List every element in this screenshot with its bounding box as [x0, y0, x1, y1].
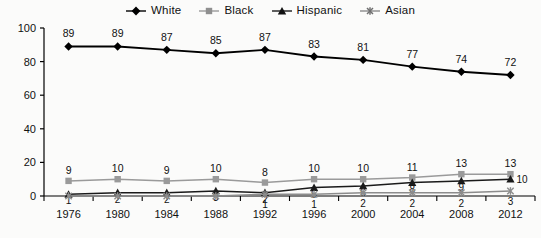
- x-axis-tick-label: 2000: [351, 208, 375, 220]
- square-marker-icon: [213, 176, 219, 182]
- data-label: 87: [161, 31, 173, 43]
- data-label: 2: [360, 198, 366, 209]
- square-marker-icon: [458, 171, 464, 177]
- data-label: 3: [508, 196, 514, 207]
- data-label: 1: [262, 199, 268, 210]
- legend-label-white: White: [151, 5, 181, 17]
- data-label: 2: [409, 198, 415, 209]
- data-label: 72: [505, 56, 517, 68]
- data-label: 1: [311, 199, 317, 210]
- triangle-marker-icon: [272, 5, 292, 17]
- data-label: 74: [456, 53, 468, 65]
- data-label: 11: [407, 161, 418, 173]
- asterisk-marker-icon: [360, 5, 380, 17]
- data-label: 13: [456, 157, 468, 169]
- y-axis-tick-label: 100: [18, 22, 36, 34]
- data-label: 9: [66, 164, 72, 176]
- data-label: 77: [406, 48, 418, 60]
- data-label: 10: [112, 162, 124, 174]
- legend-label-asian: Asian: [385, 5, 415, 17]
- series-white: [64, 42, 514, 79]
- square-marker-icon: [65, 178, 71, 184]
- legend-item-white: White: [126, 5, 181, 17]
- data-label: 83: [308, 38, 320, 50]
- y-axis-tick-label: 0: [30, 190, 36, 202]
- legend-label-hispanic: Hispanic: [297, 5, 343, 17]
- x-axis-tick-label: 2004: [400, 208, 424, 220]
- diamond-marker-icon: [64, 42, 72, 50]
- plot-area: 0204060801001976198019841988199219962000…: [0, 18, 541, 238]
- y-axis-tick-label: 20: [24, 156, 36, 168]
- diamond-marker-icon: [113, 42, 121, 50]
- diamond-marker-icon: [506, 71, 514, 79]
- data-label: 9: [164, 164, 170, 176]
- legend-item-asian: Asian: [360, 5, 415, 17]
- series-black: [65, 171, 513, 186]
- data-label: 8: [262, 166, 268, 178]
- square-marker-icon: [311, 176, 317, 182]
- data-label: 10: [516, 174, 528, 185]
- data-label: 85: [210, 34, 222, 46]
- data-label: 2: [459, 198, 465, 209]
- series-line: [69, 46, 511, 75]
- diamond-marker-icon: [212, 49, 220, 57]
- diamond-marker-icon: [310, 52, 318, 60]
- square-marker-icon: [164, 178, 170, 184]
- y-axis-tick-label: 40: [24, 123, 36, 135]
- y-axis-tick-label: 80: [24, 56, 36, 68]
- data-label: 81: [357, 41, 369, 53]
- square-marker-icon: [262, 179, 268, 185]
- square-marker-icon: [199, 5, 219, 17]
- legend-label-black: Black: [224, 5, 253, 17]
- diamond-marker-icon: [163, 46, 171, 54]
- data-label: 10: [357, 162, 369, 174]
- legend-item-black: Black: [199, 5, 253, 17]
- legend-item-hispanic: Hispanic: [272, 5, 343, 17]
- diamond-marker-icon: [261, 46, 269, 54]
- diamond-marker-icon: [408, 62, 416, 70]
- diamond-marker-icon: [359, 56, 367, 64]
- x-axis-tick-label: 1976: [56, 208, 80, 220]
- square-marker-icon: [360, 176, 366, 182]
- square-marker-icon: [114, 176, 120, 182]
- x-axis-tick-label: 1988: [204, 208, 228, 220]
- data-label: 87: [259, 31, 271, 43]
- y-axis-tick-label: 60: [24, 89, 36, 101]
- x-axis-tick-label: 2012: [498, 208, 522, 220]
- chart-svg: 0204060801001976198019841988199219962000…: [0, 18, 541, 238]
- data-label: 13: [505, 157, 517, 169]
- chart-container: White Black Hispanic: [0, 0, 541, 238]
- data-label: 89: [112, 27, 124, 39]
- diamond-marker-icon: [126, 5, 146, 17]
- x-axis-tick-label: 1984: [155, 208, 179, 220]
- x-axis-tick-label: 2008: [449, 208, 473, 220]
- diamond-marker-icon: [457, 67, 465, 75]
- x-axis-tick-label: 1980: [105, 208, 129, 220]
- data-label: 10: [210, 162, 222, 174]
- data-label: 89: [63, 27, 75, 39]
- data-label: 10: [308, 162, 320, 174]
- series-line: [69, 191, 511, 196]
